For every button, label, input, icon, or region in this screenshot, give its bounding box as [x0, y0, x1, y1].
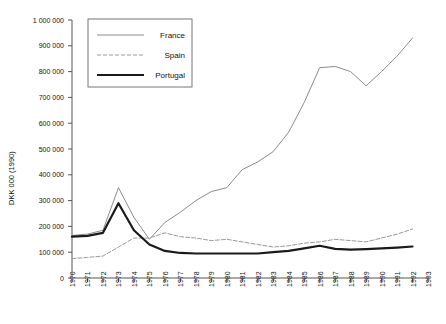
y-tick-label: 200 000 — [39, 223, 64, 230]
x-tick-label: 1974 — [131, 271, 138, 287]
y-tick-label: 400 000 — [39, 171, 64, 178]
y-tick-label: 800 000 — [39, 68, 64, 75]
y-tick-label: 900 000 — [39, 42, 64, 49]
x-tick-label: 1973 — [115, 271, 122, 287]
x-tick-label: 1993 — [425, 271, 432, 287]
x-tick-label: 1987 — [332, 271, 339, 287]
x-tick-label: 1989 — [363, 271, 370, 287]
x-tick-label: 1971 — [84, 271, 91, 287]
y-tick-label: 300 000 — [39, 197, 64, 204]
chart-container: DKK 000 (1990) 0100 000200 000300 000400… — [0, 0, 446, 324]
x-tick-label: 1984 — [286, 271, 293, 287]
x-tick-label: 1988 — [348, 271, 355, 287]
x-tick-label: 1975 — [146, 271, 153, 287]
x-tick-label: 1985 — [301, 271, 308, 287]
x-tick-label: 1992 — [410, 271, 417, 287]
series-line-portugal — [72, 203, 413, 253]
legend-label-france: France — [160, 31, 185, 40]
legend-label-portugal: Portugal — [155, 71, 185, 80]
x-tick-label: 1982 — [255, 271, 262, 287]
x-tick-label: 1991 — [394, 271, 401, 287]
chart-legend: FranceSpainPortugal — [88, 19, 192, 87]
x-tick-label: 1980 — [224, 271, 231, 287]
y-tick-label: 1 000 000 — [33, 17, 64, 24]
y-axis-title: DKK 000 (1990) — [7, 151, 16, 205]
y-tick-label: 500 000 — [39, 146, 64, 153]
y-tick-label: 0 — [60, 275, 64, 282]
y-axis-ticks: 0100 000200 000300 000400 000500 000600 … — [33, 17, 72, 282]
x-tick-label: 1986 — [317, 271, 324, 287]
y-tick-label: 600 000 — [39, 120, 64, 127]
y-tick-label: 100 000 — [39, 249, 64, 256]
x-tick-label: 1977 — [177, 271, 184, 287]
x-axis-ticks: 1970197119721973197419751976197719781979… — [69, 271, 432, 287]
x-tick-label: 1979 — [208, 271, 215, 287]
x-tick-label: 1983 — [270, 271, 277, 287]
x-tick-label: 1981 — [239, 271, 246, 287]
line-chart: DKK 000 (1990) 0100 000200 000300 000400… — [0, 0, 446, 324]
x-tick-label: 1978 — [193, 271, 200, 287]
y-axis-title-group: DKK 000 (1990) — [7, 151, 16, 205]
x-tick-label: 1976 — [162, 271, 169, 287]
x-tick-label: 1972 — [100, 271, 107, 287]
x-tick-label: 1990 — [379, 271, 386, 287]
y-tick-label: 700 000 — [39, 94, 64, 101]
legend-label-spain: Spain — [165, 51, 185, 60]
